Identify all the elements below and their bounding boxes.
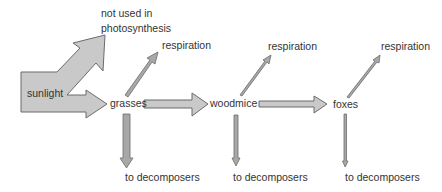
respiration-label-foxes: respiration xyxy=(381,40,430,53)
arrow-foxes-decomposers xyxy=(343,114,349,167)
decomposers-label-foxes: to decomposers xyxy=(345,171,420,184)
decomposers-label-woodmice: to decomposers xyxy=(233,171,308,184)
arrow-foxes-respiration xyxy=(347,55,380,98)
not-used-label-line1: not used in xyxy=(101,7,152,20)
arrow-woodmice-decomposers xyxy=(232,115,240,166)
sunlight-label: sunlight xyxy=(27,87,63,100)
arrow-grasses-respiration xyxy=(125,52,158,97)
node-grasses: grasses xyxy=(110,97,147,110)
not-used-label-line2: photosynthesis xyxy=(101,22,171,35)
respiration-label-woodmice: respiration xyxy=(268,40,317,53)
arrow-grasses-decomposers xyxy=(120,114,133,168)
respiration-label-grasses: respiration xyxy=(162,39,211,52)
sunlight-split-arrow xyxy=(21,35,107,118)
energy-flow-diagram: not used in photosynthesis sunlight gras… xyxy=(0,0,442,192)
arrows-layer xyxy=(0,0,442,192)
decomposers-label-grasses: to decomposers xyxy=(125,171,200,184)
arrow-woodmice-respiration xyxy=(240,55,271,96)
node-foxes: foxes xyxy=(333,98,358,111)
arrow-grasses-to-woodmice xyxy=(144,93,208,116)
arrow-woodmice-to-foxes xyxy=(259,96,327,113)
node-woodmice: woodmice xyxy=(210,97,257,110)
